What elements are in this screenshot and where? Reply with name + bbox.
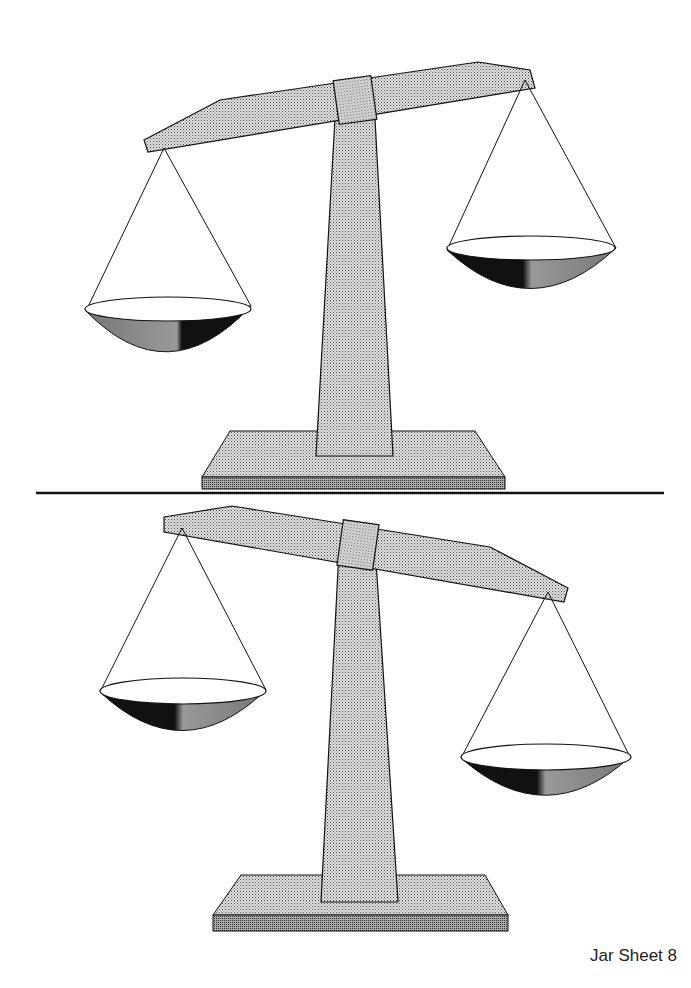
right-pan [461, 744, 631, 795]
scale-bottom [100, 506, 631, 931]
column [316, 100, 393, 456]
left-pan [85, 297, 251, 352]
right-pan [447, 236, 616, 289]
sheet-caption: Jar Sheet 8 [590, 946, 677, 966]
column [321, 530, 398, 902]
scale-top [85, 62, 616, 489]
left-pan [100, 678, 266, 731]
balance-scales-illustration [0, 0, 691, 988]
